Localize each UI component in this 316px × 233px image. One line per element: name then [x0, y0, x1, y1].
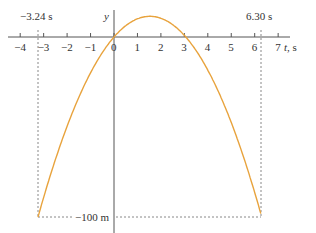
- tick-label: 2: [158, 41, 164, 53]
- tick-labels: −4−3−2−101234567: [14, 41, 281, 53]
- tick-label: −3: [38, 41, 50, 53]
- tick-label: 4: [205, 41, 211, 53]
- tick-label: 7: [275, 41, 281, 53]
- tick-label: −4: [14, 41, 26, 53]
- tick-label: 3: [181, 41, 187, 53]
- tick-marks: [20, 33, 278, 37]
- tick-label: 0: [111, 41, 117, 53]
- tick-label: 1: [134, 41, 140, 53]
- t-axis-label: t, s: [284, 41, 297, 53]
- tick-label: 6: [252, 41, 258, 53]
- tick-label: −1: [85, 41, 97, 53]
- tick-label: 5: [228, 41, 234, 53]
- left-time-label: −3.24 s: [20, 10, 52, 22]
- chart-svg: −3.24 s 6.30 s y t, s −100 m −4−3−2−1012…: [0, 0, 316, 233]
- bottom-height-label: −100 m: [75, 211, 109, 223]
- tick-label: −2: [61, 41, 73, 53]
- right-time-label: 6.30 s: [246, 10, 272, 22]
- chart: −3.24 s 6.30 s y t, s −100 m −4−3−2−1012…: [0, 0, 316, 233]
- y-axis-label: y: [103, 10, 109, 22]
